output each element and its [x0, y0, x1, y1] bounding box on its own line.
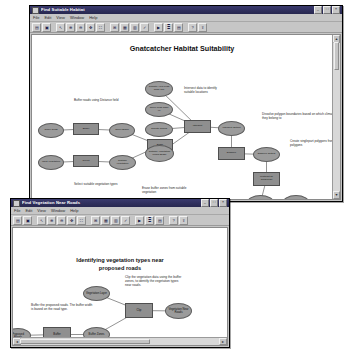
maximize-button[interactable]: □ — [323, 6, 331, 14]
report-icon[interactable]: ▤ — [174, 23, 183, 32]
model-node-label: Multipart To Singlepart — [256, 176, 277, 181]
horizontal-scrollbar[interactable]: ◄ ► — [13, 337, 227, 345]
menu-item-file[interactable]: File — [14, 207, 20, 214]
menu-item-view[interactable]: View — [37, 207, 46, 214]
window-find-vegetation-near-roads[interactable]: Find Vegetation Near Roads _ □ × File Ed… — [10, 198, 230, 348]
maximize-button[interactable]: □ — [210, 199, 218, 207]
model-node-label: Select — [83, 160, 90, 163]
save-icon[interactable]: ▤ — [13, 216, 22, 225]
zoom-in-icon[interactable]: ⊕ — [47, 216, 56, 225]
menu-bar[interactable]: File Edit View Window Help — [30, 14, 342, 22]
model-node-slope_buffer[interactable]: Slope Buffer — [109, 123, 135, 138]
model-node-input_vegetation[interactable]: Input Vegetation — [38, 155, 64, 170]
app-icon — [32, 7, 39, 14]
help-icon[interactable]: ? — [169, 216, 178, 225]
menu-item-help[interactable]: Help — [89, 14, 97, 21]
menu-item-window[interactable]: Window — [70, 14, 84, 21]
model-node-singlepart_output[interactable]: Singlepart Output — [247, 195, 274, 200]
model-canvas[interactable]: Gnatcatcher Habitat Suitability Slope Gr… — [31, 34, 341, 200]
auto-layout-icon[interactable]: ⊞ — [91, 216, 100, 225]
menu-item-file[interactable]: File — [33, 14, 39, 21]
horizontal-scroll-thumb[interactable] — [20, 339, 150, 344]
window-controls[interactable]: _ □ × — [314, 6, 340, 14]
pan-icon[interactable]: ✥ — [67, 216, 76, 225]
model-node-veg_near_roads[interactable]: Vegetation Near Roads — [165, 303, 192, 319]
model-node-vegetation_layer[interactable]: Vegetation Layer — [83, 286, 110, 301]
report-icon[interactable]: ▤ — [155, 216, 164, 225]
window-find-suitable-habitat[interactable]: Find Suitable Habitat _ □ × File Edit Vi… — [29, 5, 343, 202]
model-node-dissolve_tool[interactable]: Dissolve — [218, 147, 245, 160]
print-icon[interactable]: ▣ — [42, 23, 51, 32]
validate-icon[interactable]: ✓ — [140, 23, 149, 32]
model-node-dissolve_output[interactable]: Dissolve Output — [253, 147, 280, 162]
model-node-label: Dissolve Output — [258, 153, 276, 156]
menu-bar[interactable]: File Edit View Window Help — [11, 207, 229, 215]
model-properties-icon[interactable]: ≣ — [145, 216, 154, 225]
diagram-properties-icon[interactable]: ▦ — [120, 23, 129, 32]
model-node-label: Suitable Vegetation — [112, 160, 133, 165]
help-icon[interactable]: ? — [188, 23, 197, 32]
pan-icon[interactable]: ✥ — [86, 23, 95, 32]
note-erase: Erase buffer zones from suitable vegetat… — [142, 187, 196, 194]
note-select-veg: Select suitable vegetation types — [74, 183, 129, 187]
model-canvas[interactable]: Identifying vegetation types near propos… — [12, 227, 228, 346]
select-icon[interactable]: ↖ — [56, 23, 65, 32]
model-node-label: Buffer — [83, 128, 90, 131]
model-node-multipart_tool[interactable]: Multipart To Singlepart — [253, 172, 280, 186]
model-node-climate_less_than_10k[interactable]: Climate Area Less Than 10k — [145, 81, 173, 97]
zoom-out-icon[interactable]: ⊖ — [76, 23, 85, 32]
menu-item-edit[interactable]: Edit — [25, 207, 32, 214]
validate-icon[interactable]: ✓ — [121, 216, 130, 225]
auto-layout-icon[interactable]: ⊞ — [110, 23, 119, 32]
run-icon[interactable]: ▶ — [154, 23, 163, 32]
window-controls[interactable]: _ □ × — [201, 199, 227, 207]
menu-item-edit[interactable]: Edit — [44, 14, 51, 21]
scroll-right-arrow[interactable]: ► — [219, 338, 227, 345]
toolbar[interactable]: ▤▣↖⊕⊖✥⛶⊞▦▥✓▶≣▤?⇪ — [11, 215, 229, 226]
model-node-suitable_vegetation[interactable]: Suitable Vegetation — [109, 155, 136, 170]
select-icon[interactable]: ↖ — [37, 216, 46, 225]
model-node-clip_tool[interactable]: Clip — [125, 303, 153, 318]
model-properties-icon[interactable]: ≣ — [164, 23, 173, 32]
model-node-climate_zones[interactable]: Climate Zones — [145, 122, 173, 137]
minimize-button[interactable]: _ — [314, 6, 322, 14]
menu-item-view[interactable]: View — [56, 14, 65, 21]
minimize-button[interactable]: _ — [201, 199, 209, 207]
export-icon[interactable]: ⇪ — [179, 216, 188, 225]
app-icon — [13, 200, 20, 207]
export-icon[interactable]: ⇪ — [198, 23, 207, 32]
vertical-scroll-thumb[interactable] — [334, 42, 339, 70]
model-node-suitable_habitat[interactable]: Suitable Gnatcatcher Habitat — [282, 195, 310, 200]
model-node-select_tool[interactable]: Select — [73, 155, 99, 167]
model-node-slope_grids[interactable]: Slope Grids — [38, 123, 64, 138]
menu-item-window[interactable]: Window — [51, 207, 65, 214]
diagram-properties-icon[interactable]: ▦ — [101, 216, 110, 225]
window-titlebar[interactable]: Find Suitable Habitat _ □ × — [30, 6, 342, 14]
close-button[interactable]: × — [332, 6, 340, 14]
zoom-in-icon[interactable]: ⊕ — [66, 23, 75, 32]
add-data-icon[interactable]: ▥ — [130, 23, 139, 32]
print-icon[interactable]: ▣ — [23, 216, 32, 225]
close-button[interactable]: × — [219, 199, 227, 207]
add-data-icon[interactable]: ▥ — [111, 216, 120, 225]
model-node-label: Vegetation Near Roads — [168, 308, 189, 314]
full-extent-icon[interactable]: ⛶ — [77, 216, 86, 225]
model-node-label: Buffer Zones — [89, 333, 105, 336]
model-node-intersect_output[interactable]: Intersect Output — [218, 121, 245, 136]
note-dissolve: Dissolve polygon boundaries based on whi… — [262, 113, 341, 120]
toolbar[interactable]: ▤▣↖⊕⊖✥⛶⊞▦▥✓▶≣▤?⇪ — [30, 22, 342, 33]
model-node-label: Slope Grids — [44, 129, 57, 132]
full-extent-icon[interactable]: ⛶ — [96, 23, 105, 32]
model-node-slope_less_than_40[interactable]: Slope Less Than 40 — [145, 102, 173, 117]
window-titlebar[interactable]: Find Vegetation Near Roads _ □ × — [11, 199, 229, 207]
model-node-label: Suitable Vegetation Minus Erase — [148, 151, 171, 156]
scroll-down-arrow[interactable]: ▼ — [333, 191, 340, 199]
save-icon[interactable]: ▤ — [32, 23, 41, 32]
model-node-suitable_vegetation_erase[interactable]: Suitable Vegetation Minus Erase — [145, 145, 174, 162]
vertical-scrollbar[interactable]: ▲ ▼ — [332, 35, 340, 199]
model-node-intersect_tool[interactable]: Intersect — [184, 120, 211, 133]
menu-item-help[interactable]: Help — [70, 207, 78, 214]
model-node-buffer_tool[interactable]: Buffer — [73, 123, 99, 135]
run-icon[interactable]: ▶ — [135, 216, 144, 225]
zoom-out-icon[interactable]: ⊖ — [57, 216, 66, 225]
